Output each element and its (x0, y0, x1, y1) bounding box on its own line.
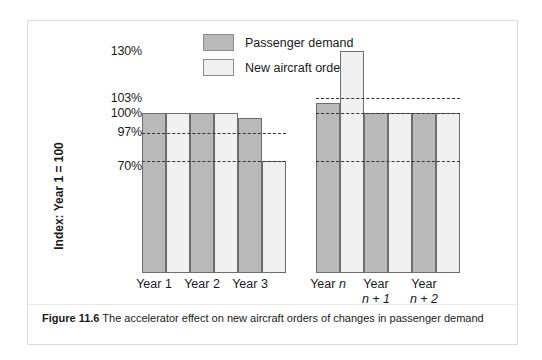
y-tick-70: 70% (94, 159, 142, 173)
legend-swatch-passenger-demand (203, 34, 234, 51)
y-tick-100: 100% (94, 106, 142, 120)
x-tick-yearn1: Yearn + 1 (352, 277, 400, 307)
x-tick-year1: Year 1 (130, 277, 178, 292)
x-tick-yearn1-word: Year (363, 277, 388, 291)
y-tick-97: 97% (94, 125, 142, 139)
gridline-100 (316, 113, 460, 114)
legend-item-passenger-demand: Passenger demand (203, 34, 353, 51)
figure-caption-text: The accelerator effect on new aircraft o… (102, 312, 483, 324)
x-tick-yearn-word: Year (310, 277, 335, 291)
figure-frame: Passenger demand New aircraft orders Ind… (27, 20, 518, 345)
gridline-70-right (316, 161, 460, 162)
chart-plot-area: Passenger demand New aircraft orders Ind… (28, 21, 519, 346)
bar-yearn-new-aircraft-orders (340, 51, 364, 273)
bar-yearn2-passenger-demand (412, 113, 436, 273)
bar-year2-new-aircraft-orders (214, 113, 238, 273)
legend-label-passenger-demand: Passenger demand (245, 36, 353, 50)
x-tick-year3: Year 3 (226, 277, 274, 292)
bar-yearn-passenger-demand (316, 103, 340, 273)
gridline-70-left (142, 161, 286, 162)
bar-year3-new-aircraft-orders (262, 161, 286, 273)
caption-divider (28, 304, 519, 305)
x-tick-yearn2: Yearn + 2 (400, 277, 448, 307)
bar-yearn1-passenger-demand (364, 113, 388, 273)
bar-year2-passenger-demand (190, 113, 214, 273)
x-tick-year2: Year 2 (178, 277, 226, 292)
y-tick-130: 130% (94, 44, 142, 58)
gridline-97 (142, 133, 286, 134)
x-tick-yearn-italic: n (339, 277, 346, 291)
bar-year3-passenger-demand (238, 118, 262, 273)
legend-label-new-aircraft-orders: New aircraft orders (245, 61, 351, 75)
figure-caption: Figure 11.6 The accelerator effect on ne… (42, 311, 507, 325)
bar-year1-new-aircraft-orders (166, 113, 190, 273)
gridline-103 (316, 98, 460, 99)
bar-yearn2-new-aircraft-orders (436, 113, 460, 273)
legend-swatch-new-aircraft-orders (203, 59, 234, 76)
legend-item-new-aircraft-orders: New aircraft orders (203, 59, 353, 76)
chart-legend: Passenger demand New aircraft orders (203, 34, 353, 84)
bar-year1-passenger-demand (142, 113, 166, 273)
x-tick-yearn: Year n (304, 277, 352, 292)
bar-yearn1-new-aircraft-orders (388, 113, 412, 273)
x-tick-yearn2-word: Year (411, 277, 436, 291)
y-tick-103: 103% (94, 91, 142, 105)
figure-caption-label: Figure 11.6 (42, 312, 99, 324)
y-axis-title: Index: Year 1 = 100 (52, 121, 66, 271)
